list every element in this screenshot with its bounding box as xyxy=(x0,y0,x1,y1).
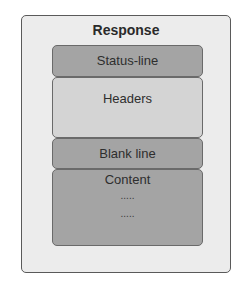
blank-line-section: Blank line xyxy=(52,138,203,169)
content-label: Content xyxy=(53,172,202,187)
status-line-label: Status-line xyxy=(97,53,158,68)
content-ellipsis-1: ..... xyxy=(53,190,202,201)
headers-section: Headers xyxy=(52,77,203,138)
status-line-section: Status-line xyxy=(52,45,203,77)
headers-label: Headers xyxy=(53,91,202,106)
content-section: Content ..... ..... xyxy=(52,169,203,246)
content-ellipsis-2: ..... xyxy=(53,208,202,219)
diagram-title: Response xyxy=(22,22,230,38)
blank-line-label: Blank line xyxy=(99,146,155,161)
